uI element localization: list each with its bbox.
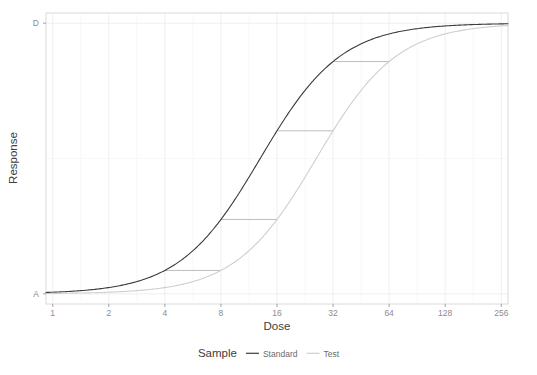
x-tick-label: 4 (162, 308, 167, 318)
y-axis-title: Response (7, 132, 19, 184)
x-tick-label: 64 (384, 308, 394, 318)
y-tick-label: A (33, 289, 39, 299)
chart-canvas: 1248163264128256 AD Dose Response Sample… (0, 0, 537, 375)
x-tick-label: 1 (50, 308, 55, 318)
x-axis-title: Dose (264, 320, 291, 332)
x-tick-label: 2 (106, 308, 111, 318)
dose-response-chart: 1248163264128256 AD Dose Response Sample… (0, 0, 537, 375)
legend-label-standard: Standard (263, 349, 298, 359)
x-tick-label: 8 (219, 308, 224, 318)
legend-label-test: Test (323, 349, 339, 359)
x-tick-label: 128 (438, 308, 452, 318)
x-tick-label: 16 (272, 308, 282, 318)
x-tick-label: 32 (328, 308, 338, 318)
legend-title: Sample (198, 347, 237, 359)
x-tick-label: 256 (494, 308, 508, 318)
y-tick-label: D (33, 18, 39, 28)
